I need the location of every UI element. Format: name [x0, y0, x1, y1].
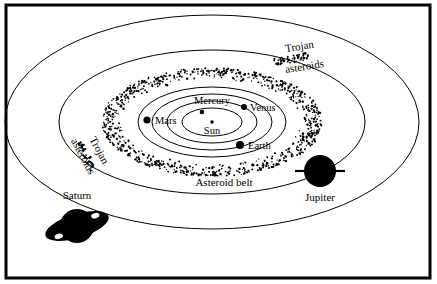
asteroid-dot — [130, 90, 132, 92]
asteroid-dot — [313, 133, 315, 135]
asteroid-dot — [232, 71, 234, 73]
asteroid-dot — [129, 87, 131, 89]
asteroid-dot — [204, 172, 205, 173]
asteroid-dot — [289, 91, 290, 92]
asteroid-dot — [174, 169, 175, 170]
asteroid-dot — [103, 113, 105, 115]
asteroid-dot — [281, 81, 282, 82]
asteroid-dot — [296, 147, 298, 149]
asteroid-dot — [216, 73, 217, 74]
asteroid-dot — [141, 89, 142, 90]
asteroid-dot — [147, 161, 149, 163]
asteroid-dot — [197, 73, 199, 75]
asteroid-dot — [306, 124, 308, 126]
asteroid-dot — [164, 166, 166, 168]
asteroid-dot — [267, 85, 269, 87]
asteroid-dot — [150, 82, 151, 83]
asteroid-dot — [184, 71, 186, 73]
asteroid-dot — [113, 98, 115, 100]
asteroid-dot — [238, 168, 240, 170]
asteroid-dot — [204, 173, 205, 174]
jupiter-label: Jupiter — [305, 191, 335, 203]
asteroid-dot — [282, 153, 284, 155]
asteroid-dot — [285, 149, 287, 151]
asteroid-dot — [272, 166, 274, 168]
asteroid-dot — [148, 164, 150, 166]
asteroid-dot — [121, 99, 123, 101]
asteroid-dot — [157, 164, 158, 165]
asteroid-dot — [196, 68, 197, 69]
asteroid-dot — [132, 147, 133, 148]
venus-label: Venus — [250, 102, 276, 113]
asteroid-dot — [252, 163, 254, 165]
asteroid-dot — [186, 171, 188, 173]
asteroid-dot — [298, 102, 299, 103]
asteroid-dot — [181, 76, 183, 78]
asteroid-dot — [272, 155, 274, 157]
asteroid-dot — [148, 77, 149, 78]
asteroid-dot — [109, 121, 111, 123]
asteroid-dot — [302, 105, 304, 107]
asteroid-dot — [304, 148, 306, 150]
asteroid-dot — [185, 168, 187, 170]
asteroid-dot — [315, 115, 316, 116]
asteroid-dot — [226, 73, 227, 74]
asteroid-dot — [117, 113, 118, 114]
asteroid-dot — [173, 172, 174, 173]
asteroid-dot — [176, 76, 177, 77]
asteroid-dot — [297, 107, 299, 109]
asteroid-dot — [295, 102, 296, 103]
asteroid-dot — [212, 166, 214, 168]
asteroid-dot — [128, 101, 129, 102]
asteroid-dot — [309, 97, 311, 99]
asteroid-dot — [262, 166, 263, 167]
asteroid-dot — [114, 116, 115, 117]
asteroid-dot — [156, 80, 157, 81]
asteroid-dot — [304, 117, 306, 119]
asteroid-dot — [107, 119, 108, 120]
asteroid-dot — [260, 75, 262, 77]
asteroid-dot — [261, 168, 262, 169]
asteroid-dot — [290, 96, 292, 98]
asteroid-dot — [268, 87, 270, 89]
asteroid-dot — [242, 169, 243, 170]
asteroid-dot — [180, 71, 182, 73]
asteroid-dot — [251, 74, 253, 76]
asteroid-dot — [159, 163, 161, 165]
asteroid-dot — [208, 171, 210, 173]
asteroid-dot — [300, 144, 302, 146]
asteroid-dot — [108, 132, 110, 134]
asteroid-dot — [109, 135, 110, 136]
asteroid-dot — [309, 145, 311, 147]
asteroid-dot — [118, 136, 120, 138]
asteroid-dot — [298, 147, 299, 148]
asteroid-dot — [293, 87, 294, 88]
asteroid-dot — [313, 100, 314, 101]
asteroid-dot — [146, 91, 148, 93]
asteroid-dot — [109, 104, 110, 105]
asteroid-dot — [289, 83, 290, 84]
asteroid-dot — [249, 76, 250, 77]
asteroid-dot — [307, 108, 309, 110]
asteroid-dot — [295, 96, 296, 97]
asteroid-dot — [119, 104, 120, 105]
asteroid-dot — [178, 79, 180, 81]
asteroid-dot — [119, 141, 121, 143]
asteroid-dot — [169, 74, 171, 76]
asteroid-dot — [111, 108, 112, 109]
asteroid-dot — [195, 164, 197, 166]
asteroid-dot — [111, 114, 112, 115]
asteroid-dot — [127, 140, 129, 142]
asteroid-dot — [122, 136, 124, 138]
asteroid-dot — [173, 75, 175, 77]
asteroid-dot — [277, 159, 278, 160]
asteroid-dot — [141, 150, 143, 152]
asteroid-dot — [117, 147, 119, 149]
asteroid-dot — [239, 71, 241, 73]
asteroid-dot — [260, 82, 261, 83]
asteroid-dot — [285, 160, 287, 162]
sun-label: Sun — [204, 125, 221, 136]
mercury-label: Mercury — [194, 95, 231, 106]
asteroid-dot — [193, 77, 195, 79]
asteroid-dot — [124, 140, 125, 141]
